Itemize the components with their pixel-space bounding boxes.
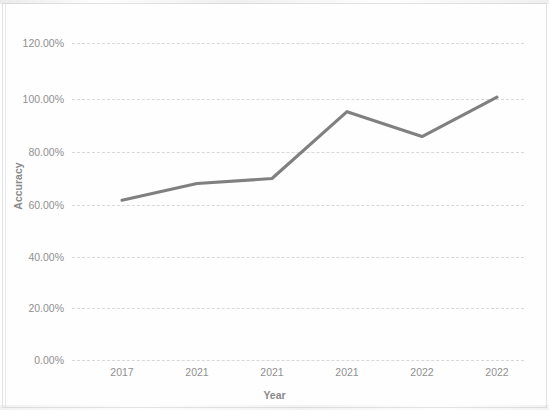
accuracy-by-year-line-chart: 120.00% 100.00% 80.00% 60.00% 40.00% 20.…	[0, 0, 549, 410]
accuracy-series-line	[122, 97, 497, 200]
series-layer	[0, 0, 549, 410]
